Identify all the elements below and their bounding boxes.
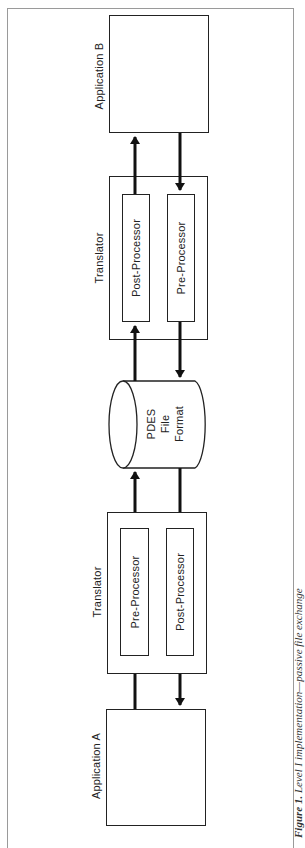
figure-caption: Figure 1. Level I implementation—passive… [292, 588, 304, 838]
figure-number: Figure 1. [292, 796, 304, 838]
pre-processor-bottom-label: Pre-Processor [129, 556, 141, 629]
pdes-line3: Format [173, 406, 185, 442]
application-a-label: Application A [90, 733, 102, 799]
pdes-line1: PDES [145, 409, 157, 440]
translator-bottom-label: Translator [91, 566, 103, 617]
application-a-box [106, 709, 206, 826]
pdes-cylinder-icon [109, 381, 205, 468]
figure-caption-text: Level I implementation—passive file exch… [292, 588, 304, 793]
post-processor-bottom-label: Post-Processor [174, 553, 186, 631]
pdes-line2: File [159, 415, 171, 434]
